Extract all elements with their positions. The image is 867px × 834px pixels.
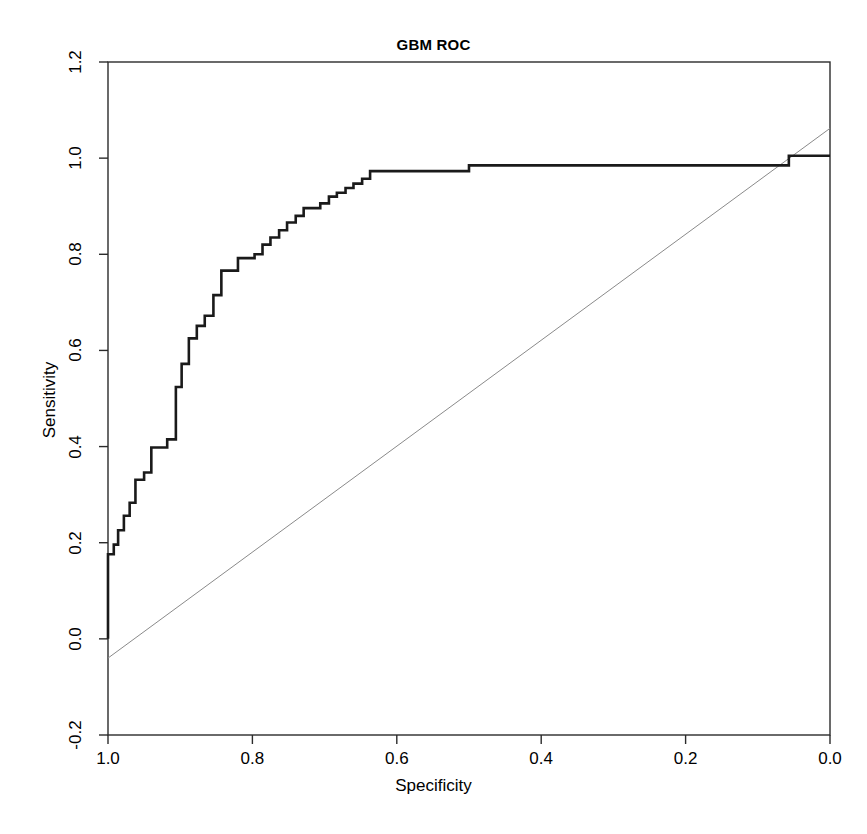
- y-tick-label: 0.4: [66, 417, 86, 477]
- y-tick-label: 0.0: [66, 609, 86, 669]
- y-tick-label: 0.8: [66, 224, 86, 284]
- y-tick-label: 1.0: [66, 128, 86, 188]
- y-axis-title: Sensitivity: [40, 330, 60, 470]
- x-tick-label: 1.0: [78, 749, 138, 769]
- y-tick-label: 1.2: [66, 32, 86, 92]
- y-tick-label: 0.2: [66, 513, 86, 573]
- x-tick-label: 0.8: [222, 749, 282, 769]
- x-axis-title: Specificity: [0, 776, 867, 796]
- chart-plot-area: [0, 0, 867, 834]
- y-tick-label: 0.6: [66, 320, 86, 380]
- x-tick-label: 0.4: [511, 749, 571, 769]
- x-tick-label: 0.0: [800, 749, 860, 769]
- y-tick-label: -0.2: [66, 705, 86, 765]
- x-tick-label: 0.6: [367, 749, 427, 769]
- roc-chart-figure: GBM ROC 1.00.80.60.40.20.0 -0.20.00.20.4…: [0, 0, 867, 834]
- x-tick-label: 0.2: [656, 749, 716, 769]
- plot-frame: [108, 62, 830, 735]
